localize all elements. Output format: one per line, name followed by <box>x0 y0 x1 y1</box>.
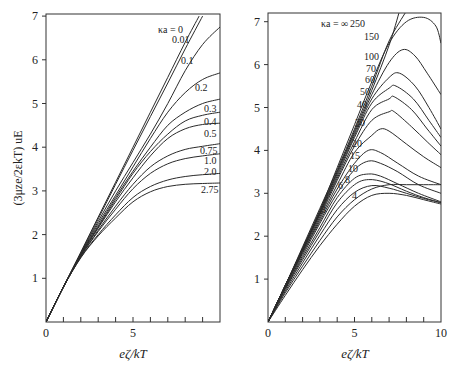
y-tick-label: 4 <box>254 143 260 157</box>
curve-label: 40 <box>357 99 367 110</box>
curve-label: 30 <box>355 117 365 128</box>
y-tick-label: 5 <box>254 101 260 115</box>
curve-label: 60 <box>365 74 375 85</box>
right-panel: 1234567 0510 κa = ∞250150100706050403020… <box>254 11 447 361</box>
curve-ka-0.3 <box>46 99 220 322</box>
curve-ka-2.75 <box>46 183 220 322</box>
curve-ka-0.5 <box>46 123 220 322</box>
left-curve-labels: κa = 00.010.10.20.30.40.50.751.02.02.75 <box>158 24 219 195</box>
curve-label: 2.0 <box>204 166 217 177</box>
curve-ka-3 <box>268 193 441 322</box>
curve-ka-1.0 <box>46 154 220 322</box>
x-tick-label: 10 <box>435 326 447 340</box>
electrophoretic-mobility-figure: 1234567 05 κa = 00.010.10.20.30.40.50.75… <box>0 0 455 365</box>
right-x-axis-label: eζ/kT <box>341 346 369 361</box>
left-x-axis-label: eζ/kT <box>119 346 147 361</box>
curve-ka-100 <box>268 49 441 322</box>
curve-ka-2.0 <box>46 173 220 322</box>
curve-label: 2.75 <box>201 184 219 195</box>
y-tick-label: 3 <box>32 184 38 198</box>
curve-ka-0.1 <box>46 27 220 322</box>
curve-label: 0.1 <box>181 55 194 66</box>
left-panel: 1234567 05 κa = 00.010.10.20.30.40.50.75… <box>11 9 220 361</box>
y-tick-label: 2 <box>254 229 260 243</box>
curve-label: 15 <box>350 150 360 161</box>
right-x-ticks: 0510 <box>265 317 447 340</box>
x-tick-label: 5 <box>130 326 136 340</box>
y-tick-label: 7 <box>32 9 38 23</box>
curve-label: 50 <box>360 86 370 97</box>
curve-ka-20 <box>268 150 441 322</box>
y-tick-label: 7 <box>254 15 260 29</box>
left-curves <box>46 16 220 322</box>
curve-label: 8 <box>345 174 350 185</box>
figure-canvas: 1234567 05 κa = 00.010.10.20.30.40.50.75… <box>0 0 455 365</box>
curve-label: 0.5 <box>204 128 217 139</box>
curve-label: 0.4 <box>204 116 217 127</box>
curve-label: 250 <box>350 18 365 29</box>
left-x-ticks: 05 <box>43 317 203 340</box>
curve-label: 4 <box>352 190 357 201</box>
y-axis-label: (3μze/2εkT) uE <box>11 130 25 205</box>
y-tick-label: 1 <box>32 271 38 285</box>
curve-ka-250 <box>268 11 400 322</box>
curve-label: 20 <box>352 138 362 149</box>
y-tick-label: 2 <box>32 228 38 242</box>
x-tick-label: 0 <box>265 326 271 340</box>
y-tick-label: 4 <box>32 140 38 154</box>
left-y-ticks: 1234567 <box>32 9 46 285</box>
curve-label: κa = ∞ <box>321 18 348 29</box>
curve-label: 0.3 <box>204 103 217 114</box>
curve-ka-0.4 <box>46 112 220 322</box>
curve-label: 70 <box>366 63 376 74</box>
curve-label: 150 <box>364 31 379 42</box>
y-tick-label: 6 <box>32 53 38 67</box>
curve-label: 0.2 <box>195 82 208 93</box>
curve-label: 3 <box>321 204 326 215</box>
curve-label: 1.0 <box>204 155 217 166</box>
curve-label: 10 <box>348 163 358 174</box>
y-tick-label: 6 <box>254 58 260 72</box>
left-plot-frame <box>46 14 220 322</box>
curve-ka-4 <box>268 184 441 322</box>
x-tick-label: 0 <box>43 326 49 340</box>
x-tick-label: 5 <box>352 326 358 340</box>
curve-label: 6 <box>338 180 343 191</box>
y-tick-label: 5 <box>32 97 38 111</box>
curve-label: 0.01 <box>172 34 190 45</box>
y-tick-label: 3 <box>254 186 260 200</box>
curve-label: 100 <box>364 51 379 62</box>
right-y-ticks: 1234567 <box>254 15 268 286</box>
y-tick-label: 1 <box>254 272 260 286</box>
